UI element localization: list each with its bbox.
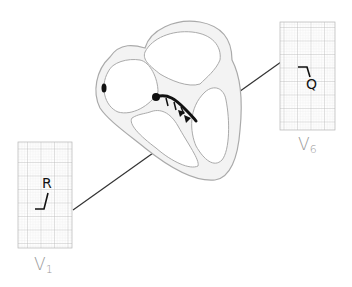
q-wave-label: Q (306, 76, 317, 92)
v1-ecg-grid (18, 142, 72, 248)
r-wave-label: R (42, 175, 52, 191)
v1-lead-label: V1 (34, 254, 53, 276)
sa-node (102, 84, 107, 93)
heart-illustration (96, 21, 241, 180)
v6-lead-label: V6 (298, 134, 317, 156)
v1-label-main: V (34, 254, 46, 274)
v6-label-main: V (298, 134, 310, 154)
v1-label-sub: 1 (46, 263, 53, 276)
v6-label-sub: 6 (310, 143, 317, 156)
